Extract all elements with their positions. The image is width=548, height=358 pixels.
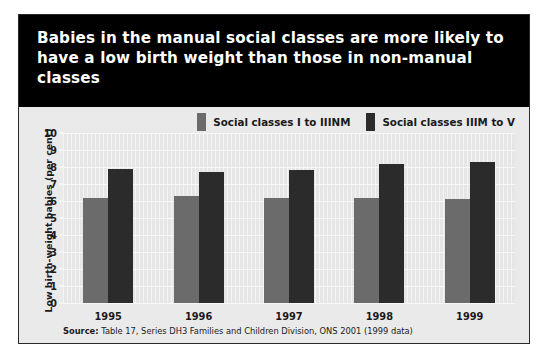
y-axis-tick-label: 7: [50, 179, 57, 190]
y-axis-tick-label: 1: [50, 281, 57, 292]
bar: [354, 198, 379, 303]
bar-group: 1997: [264, 133, 314, 303]
bar: [264, 198, 289, 303]
bar: [470, 162, 495, 303]
bar: [289, 170, 314, 303]
x-axis-tick-label: 1997: [264, 311, 314, 322]
legend-swatch-icon: [366, 113, 375, 131]
x-axis-tick-label: 1998: [354, 311, 404, 322]
bar-groups: 19951996199719981999: [63, 133, 515, 303]
x-axis-tick-label: 1996: [174, 311, 224, 322]
figure-container: Babies in the manual social classes are …: [18, 14, 530, 344]
legend-label: Social classes IIIM to V: [382, 116, 515, 128]
bar: [83, 198, 108, 303]
gridline: [63, 303, 515, 304]
page-title: Babies in the manual social classes are …: [37, 28, 511, 89]
x-axis-tick-label: 1995: [83, 311, 133, 322]
bar-group: 1999: [445, 133, 495, 303]
chart-legend: Social classes I to IIINMSocial classes …: [19, 113, 529, 131]
x-axis-tick-label: 1999: [445, 311, 495, 322]
y-axis-tick-label: 0: [50, 298, 57, 309]
bar-group: 1996: [174, 133, 224, 303]
source-text: Table 17, Series DH3 Families and Childr…: [99, 326, 413, 336]
bar: [199, 172, 224, 303]
y-axis-tick-label: 8: [50, 162, 57, 173]
bar-group: 1995: [83, 133, 133, 303]
legend-entry: Social classes IIIM to V: [366, 113, 515, 131]
y-axis-tick-label: 9: [50, 145, 57, 156]
y-axis-tick-label: 3: [50, 247, 57, 258]
y-axis-tick-label: 2: [50, 264, 57, 275]
chart-panel: Social classes I to IIINMSocial classes …: [19, 107, 529, 343]
bar: [445, 199, 470, 303]
y-axis-tick-label: 4: [50, 230, 57, 241]
bar: [174, 196, 199, 303]
y-axis-tick-label: 10: [44, 128, 57, 139]
source-label: Source:: [63, 326, 99, 336]
bar: [108, 169, 133, 303]
source-note: Source: Table 17, Series DH3 Families an…: [63, 326, 413, 336]
bar: [379, 164, 404, 303]
y-axis-tick-label: 5: [50, 213, 57, 224]
legend-entry: Social classes I to IIINM: [197, 113, 350, 131]
plot-area: 012345678910 19951996199719981999: [63, 133, 515, 303]
y-axis-tick-label: 6: [50, 196, 57, 207]
legend-label: Social classes I to IIINM: [213, 116, 350, 128]
title-banner: Babies in the manual social classes are …: [19, 15, 529, 107]
legend-swatch-icon: [197, 113, 206, 131]
bar-group: 1998: [354, 133, 404, 303]
